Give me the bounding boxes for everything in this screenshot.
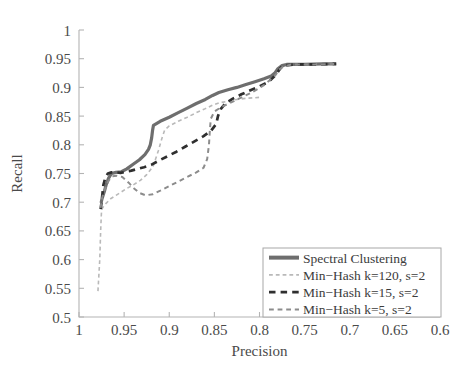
series-line-1 — [98, 97, 261, 291]
legend-label-1: Min−Hash k=120, s=2 — [303, 268, 425, 283]
y-tick-label: 0.6 — [52, 252, 71, 268]
y-axis-title: Recall — [9, 154, 25, 192]
series-line-2 — [101, 64, 337, 209]
precision-recall-figure: 0.50.550.60.650.70.750.80.850.90.95110.9… — [0, 0, 461, 378]
y-tick-label: 0.8 — [52, 137, 71, 153]
y-tick-label: 0.7 — [52, 195, 71, 211]
series-line-0 — [101, 64, 336, 203]
x-tick-label: 0.7 — [340, 322, 359, 338]
legend-label-3: Min−Hash k=5, s=2 — [303, 302, 412, 317]
y-tick-label: 0.9 — [52, 80, 71, 96]
legend-label-2: Min−Hash k=15, s=2 — [303, 285, 418, 300]
y-tick-label: 0.65 — [45, 223, 71, 239]
y-tick-label: 0.5 — [52, 310, 71, 326]
chart-legend: Spectral ClusteringMin−Hash k=120, s=2Mi… — [263, 248, 441, 317]
y-tick-label: 0.55 — [45, 281, 71, 297]
x-tick-label: 0.95 — [111, 322, 137, 338]
y-tick-label: 0.95 — [45, 51, 71, 67]
x-tick-label: 0.8 — [250, 322, 269, 338]
y-tick-label: 1 — [64, 23, 72, 39]
series-line-3 — [101, 64, 337, 208]
precision-recall-chart: 0.50.550.60.650.70.750.80.850.90.95110.9… — [0, 0, 461, 378]
y-tick-label: 0.75 — [45, 166, 71, 182]
x-axis-title: Precision — [232, 343, 288, 359]
x-tick-label: 0.75 — [292, 322, 318, 338]
x-tick-label: 0.9 — [160, 322, 179, 338]
legend-label-0: Spectral Clustering — [303, 251, 407, 266]
x-tick-label: 0.65 — [382, 322, 408, 338]
y-tick-label: 0.85 — [45, 109, 71, 125]
x-tick-label: 1 — [75, 322, 83, 338]
x-tick-label: 0.85 — [201, 322, 227, 338]
x-tick-label: 0.6 — [431, 322, 450, 338]
